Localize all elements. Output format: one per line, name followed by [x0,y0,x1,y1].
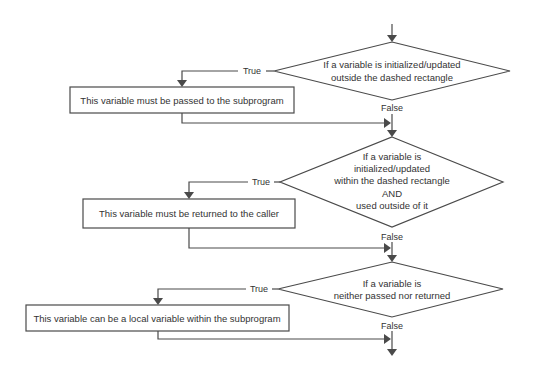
decision-text-line: outside the dashed rectangle [331,72,453,83]
true-label: True [243,66,261,76]
decision-text-line: If a variable is initialized/updated [323,59,460,70]
decision-text-line: initialized/updated [354,163,430,174]
action-text: This variable must be passed to the subp… [80,95,283,106]
false-label: False [381,103,403,113]
decision-3: If a variable is neither passed nor retu… [278,262,503,317]
action-box-1: This variable must be passed to the subp… [70,87,294,113]
decision-diamond [274,42,510,100]
entry-arrow [387,24,397,42]
decision-text-line: If a variable is [363,278,422,289]
action-text: This variable must be returned to the ca… [99,208,279,219]
decision-text-line: neither passed nor returned [334,290,451,301]
false-label: False [381,232,403,242]
decision-text-line: within the dashed rectangle [333,175,450,186]
true-label: True [252,177,270,187]
action-box-3: This variable can be a local variable wi… [26,305,289,331]
flowchart: If a variable is initialized/updated out… [0,0,534,376]
merge-line-1 [182,113,391,128]
true-branch-1: True [177,66,274,87]
decision-1: If a variable is initialized/updated out… [274,42,510,100]
false-label: False [381,321,403,331]
true-branch-2: True [184,177,280,199]
merge-line-2 [189,228,391,253]
action-text: This variable can be a local variable wi… [33,313,280,324]
decision-text-line: used outside of it [356,200,428,211]
true-label: True [250,284,268,294]
decision-2: If a variable is initialized/updated wit… [280,137,503,227]
decision-text-line: If a variable is [363,151,422,162]
decision-text-line: AND [382,188,402,199]
merge-line-3 [158,331,391,344]
true-branch-3: True [153,284,278,305]
action-box-2: This variable must be returned to the ca… [83,199,295,228]
